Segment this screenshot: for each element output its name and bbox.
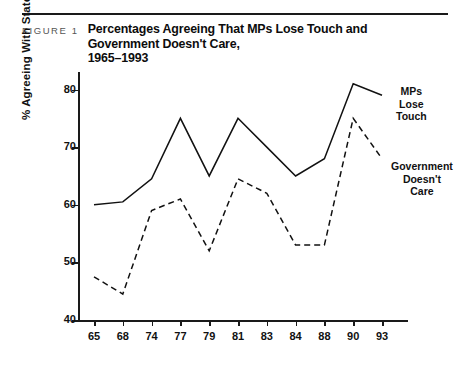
annotation-line: MPs xyxy=(396,85,427,98)
y-axis-tick-label: 40 xyxy=(50,313,76,325)
x-axis-tick-label: 65 xyxy=(82,330,106,342)
series-line-mps-lose-touch xyxy=(94,84,382,205)
series-annotation-government-doesnt-care: GovernmentDoesn'tCare xyxy=(391,160,453,198)
series-lines xyxy=(78,72,408,322)
annotation-line: Touch xyxy=(396,110,427,123)
figure-container: FIGURE 1 Percentages Agreeing That MPs L… xyxy=(0,0,467,376)
y-axis-tick-label: 60 xyxy=(50,198,76,210)
plot-area: 4050607080 6568747779818384889093 xyxy=(78,72,408,322)
figure-title-line-1: Percentages Agreeing That MPs Lose Touch… xyxy=(88,22,423,51)
annotation-line: Doesn't xyxy=(391,173,453,186)
annotation-line: Government xyxy=(391,160,453,173)
x-axis-tick-label: 79 xyxy=(197,330,221,342)
x-axis-tick-label: 83 xyxy=(255,330,279,342)
x-axis-tick-label: 93 xyxy=(370,330,394,342)
x-axis-tick-label: 68 xyxy=(111,330,135,342)
y-axis-tick-label: 80 xyxy=(50,83,76,95)
y-axis-tick-label: 70 xyxy=(50,140,76,152)
x-axis-tick-label: 77 xyxy=(168,330,192,342)
figure-title: Percentages Agreeing That MPs Lose Touch… xyxy=(88,22,423,66)
x-axis-tick-label: 81 xyxy=(226,330,250,342)
series-line-government-doesn-t-care xyxy=(94,118,382,294)
annotation-line: Lose xyxy=(396,98,427,111)
y-axis-title: % Agreeing With Statement xyxy=(20,0,32,120)
header-rule xyxy=(22,13,448,15)
x-axis-tick-label: 74 xyxy=(140,330,164,342)
annotation-line: Care xyxy=(391,185,453,198)
y-axis-tick-label: 50 xyxy=(50,255,76,267)
x-axis-tick-label: 84 xyxy=(284,330,308,342)
figure-title-line-2: 1965–1993 xyxy=(88,51,423,66)
x-axis-tick-label: 88 xyxy=(312,330,336,342)
x-axis-tick-label: 90 xyxy=(341,330,365,342)
series-annotation-mps-lose-touch: MPsLoseTouch xyxy=(396,85,427,123)
figure-header: FIGURE 1 Percentages Agreeing That MPs L… xyxy=(22,22,452,66)
